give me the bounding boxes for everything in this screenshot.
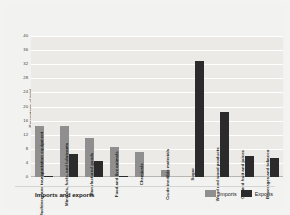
category-label: Crude inedible materials xyxy=(165,148,169,199)
bar-exports xyxy=(119,176,128,177)
legend-swatch-imports xyxy=(205,190,216,197)
legend-item-imports: Imports xyxy=(205,190,237,197)
bar-group: Wood and wood products xyxy=(208,36,232,177)
y-tick-label: 36 xyxy=(23,48,28,52)
bar-group: Beverages and tobacco xyxy=(258,36,282,177)
footer-divider xyxy=(15,186,275,187)
y-tick-label: 0 xyxy=(26,175,28,179)
category-label: Manufactured goods xyxy=(90,152,94,195)
bar-exports xyxy=(220,112,229,177)
y-tick-label: 8 xyxy=(26,147,28,151)
y-tick-label: 16 xyxy=(23,118,28,122)
plot-area: 0481216202428323640 Machinery and transp… xyxy=(31,36,283,177)
bar-group: Minerals, fuels, and lubricants xyxy=(57,36,81,177)
bar-group: Machinery and transportation equipment xyxy=(32,36,56,177)
y-tick-label: 32 xyxy=(23,62,28,66)
category-label: Chemicals xyxy=(140,163,144,185)
bar-group: Food and live animals xyxy=(107,36,131,177)
y-tick-label: 28 xyxy=(23,76,28,80)
bar-group: Chemicals xyxy=(133,36,157,177)
chart-legend: ImportsExports xyxy=(205,190,273,197)
y-tick-label: 20 xyxy=(23,104,28,108)
y-tick-label: 12 xyxy=(23,133,28,137)
bar-exports xyxy=(94,161,103,177)
y-tick-label: 40 xyxy=(23,34,28,38)
legend-swatch-exports xyxy=(241,190,252,197)
x-axis-title: Imports and exports xyxy=(35,191,94,198)
bar-exports xyxy=(245,156,254,177)
bar-exports xyxy=(270,158,279,177)
y-tick-label: 24 xyxy=(23,90,28,94)
bar-exports xyxy=(69,154,78,177)
legend-label: Exports xyxy=(255,191,273,197)
chart-frame: Percentage of total 0481216202428323640 … xyxy=(5,5,285,210)
category-label: Machinery and transportation equipment xyxy=(39,131,43,215)
y-tick-label: 4 xyxy=(26,161,28,165)
category-label: Sugar xyxy=(190,168,194,180)
chart-figure: Percentage of total 0481216202428323640 … xyxy=(0,0,290,215)
legend-label: Imports xyxy=(219,191,237,197)
bar-group: Sugar xyxy=(183,36,207,177)
category-label: Food and live animals xyxy=(115,151,119,197)
bar-group: Crude inedible materials xyxy=(158,36,182,177)
bar-group: Manufactured goods xyxy=(82,36,106,177)
bar-exports xyxy=(44,176,53,177)
bar-group: Canned fruit and juices xyxy=(233,36,257,177)
bar-exports xyxy=(195,61,204,177)
legend-item-exports: Exports xyxy=(241,190,273,197)
bar-groups: Machinery and transportation equipmentMi… xyxy=(31,36,283,177)
